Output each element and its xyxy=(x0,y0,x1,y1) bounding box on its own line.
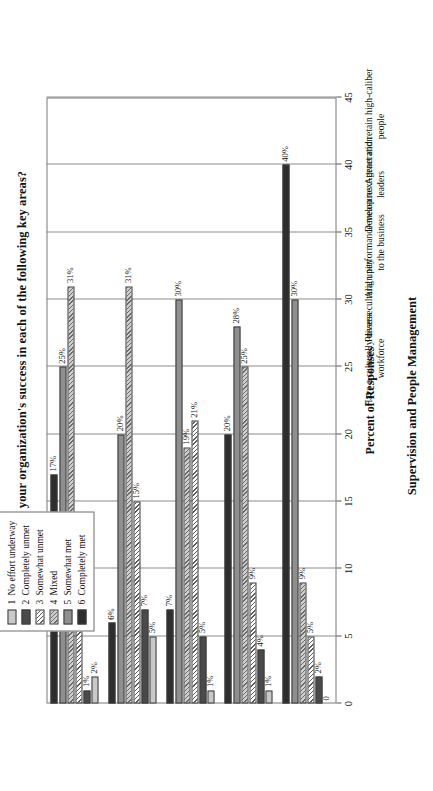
bar-value-label: 6% xyxy=(105,608,115,619)
legend-label: Completely met xyxy=(76,534,86,595)
legend-number: 2 xyxy=(20,595,30,604)
bar xyxy=(257,649,264,703)
bar xyxy=(191,420,198,703)
legend-item: 4Mixed xyxy=(46,520,60,624)
axis-tick-label: 20 xyxy=(342,428,353,439)
legend-item: 3Somewhat unmet xyxy=(32,520,46,624)
axis-tick-label: 45 xyxy=(342,92,353,103)
axis-tick xyxy=(336,365,341,366)
legend-swatch-5 xyxy=(63,609,72,624)
axis-tick-label: 0 xyxy=(342,700,353,705)
axis-tick-label: 10 xyxy=(342,563,353,574)
legend: 1No effort underway2Completely unmet3Som… xyxy=(0,511,94,631)
chart-rotation-wrapper: How would you rate your organization's s… xyxy=(0,0,433,791)
axis-tick-label: 35 xyxy=(342,226,353,237)
legend-label: Somewhat met xyxy=(62,538,72,595)
legend-number: 3 xyxy=(34,595,44,604)
bar xyxy=(207,690,214,703)
axis-tick-label: 15 xyxy=(342,496,353,507)
bar-value-label: 20% xyxy=(114,415,124,431)
bar xyxy=(249,582,256,703)
chart-canvas: How would you rate your organization's s… xyxy=(0,0,433,791)
axis-tick xyxy=(336,500,341,501)
bar xyxy=(307,636,314,703)
bar xyxy=(117,434,124,703)
bar xyxy=(183,447,190,703)
bar xyxy=(141,609,148,703)
legend-item: 5Somewhat met xyxy=(60,520,74,624)
axis-tick xyxy=(336,433,341,434)
bar-value-label: 21% xyxy=(188,401,198,417)
bar-value-label: 31% xyxy=(64,267,74,283)
bar xyxy=(233,326,240,703)
bar-value-label: 20% xyxy=(221,415,231,431)
bar-value-label: 31% xyxy=(122,267,132,283)
bar-value-label: 25% xyxy=(56,348,66,364)
category-axis-title: Supervision and People Management xyxy=(404,0,419,791)
bar-value-label: 7% xyxy=(163,594,173,605)
axis-tick xyxy=(336,702,341,703)
axis-tick xyxy=(336,163,341,164)
legend-item: 2Completely unmet xyxy=(18,520,32,624)
bar-value-label: 2% xyxy=(88,662,98,673)
bar xyxy=(291,299,298,703)
axis-tick-label: 40 xyxy=(342,159,353,170)
bar xyxy=(282,164,289,703)
chart-title: How would you rate your organization's s… xyxy=(14,0,29,791)
axis-tick-label: 25 xyxy=(342,361,353,372)
bar xyxy=(199,636,206,703)
gridline xyxy=(46,163,336,164)
bar xyxy=(265,690,272,703)
bar xyxy=(133,501,140,703)
axis-tick xyxy=(336,298,341,299)
bar xyxy=(241,366,248,703)
legend-number: 5 xyxy=(62,595,72,604)
bar xyxy=(91,676,98,703)
axis-tick xyxy=(336,567,341,568)
gridline xyxy=(46,96,336,97)
bar xyxy=(315,676,322,703)
legend-label: Somewhat unmet xyxy=(34,529,44,595)
bar xyxy=(67,286,74,703)
bar xyxy=(166,609,173,703)
bar xyxy=(299,582,306,703)
legend-number: 4 xyxy=(48,595,58,604)
bar xyxy=(108,622,115,703)
bar-value-label: 28% xyxy=(230,307,240,323)
bar xyxy=(149,636,156,703)
legend-label: Mixed xyxy=(48,570,58,595)
bar-value-label: 17% xyxy=(47,455,57,471)
legend-label: No effort underway xyxy=(6,520,16,595)
bar-value-label: 30% xyxy=(172,280,182,296)
legend-number: 6 xyxy=(76,595,86,604)
axis-tick xyxy=(336,96,341,97)
legend-item: 6Completely met xyxy=(74,520,88,624)
legend-number: 1 xyxy=(6,595,16,604)
legend-swatch-6 xyxy=(77,609,86,624)
axis-tick xyxy=(336,635,341,636)
legend-swatch-1 xyxy=(7,609,16,624)
axis-tick xyxy=(336,231,341,232)
bar xyxy=(125,286,132,703)
category-label: Have a culturally diverse workforce xyxy=(362,299,385,417)
legend-swatch-4 xyxy=(49,609,58,624)
percent-axis-ticks: 051015202530354045 xyxy=(336,97,362,703)
legend-label: Completely unmet xyxy=(20,525,30,595)
legend-item: 1No effort underway xyxy=(4,520,18,624)
legend-swatch-2 xyxy=(21,609,30,624)
bar xyxy=(175,299,182,703)
legend-swatch-3 xyxy=(35,609,44,624)
bar xyxy=(83,690,90,703)
gridline xyxy=(46,231,336,232)
axis-tick-label: 30 xyxy=(342,294,353,305)
axis-tick-label: 5 xyxy=(342,633,353,638)
bar xyxy=(224,434,231,703)
bar-value-label: 40% xyxy=(279,146,289,162)
